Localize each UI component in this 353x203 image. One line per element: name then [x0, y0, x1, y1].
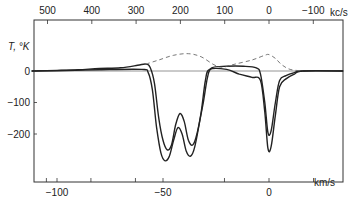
y-tick-label: −200: [7, 129, 30, 140]
x-axis-label-top: kc/s: [330, 7, 348, 18]
y-tick-label: 0: [24, 66, 30, 77]
top-tick-label: 100: [216, 5, 233, 16]
top-tick-label: 300: [128, 5, 145, 16]
top-tick-label: −100: [302, 5, 325, 16]
plot-frame: [34, 20, 343, 182]
top-tick-label: 200: [172, 5, 189, 16]
bottom-tick-label: −100: [46, 187, 69, 198]
y-axis-label: T, °K: [8, 41, 31, 52]
curves: [32, 54, 344, 161]
bottom-tick-label: 0: [266, 187, 272, 198]
top-tick-label: 500: [39, 5, 56, 16]
bottom-tick-label: −50: [155, 187, 172, 198]
frame-rect: [34, 20, 343, 182]
y-tick-label: −100: [7, 97, 30, 108]
x-axis-label-bottom: km/s: [314, 177, 335, 188]
series-profile-shallow: [32, 64, 344, 150]
chart: 5004003002001000−100−100−5000−100−200 T,…: [0, 0, 353, 203]
top-tick-label: 400: [83, 5, 100, 16]
top-tick-label: 0: [266, 5, 272, 16]
series-profile-deep: [32, 68, 344, 160]
